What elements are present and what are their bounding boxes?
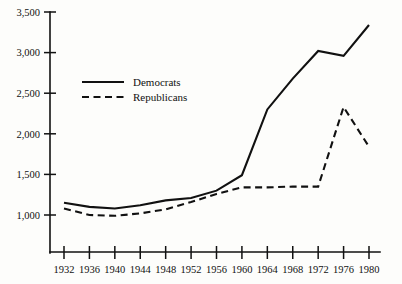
- y-tick-label: 3,000: [16, 47, 40, 58]
- y-axis-tick-labels: 1,0001,5002,0002,5003,0003,500: [16, 7, 40, 221]
- x-tick-label: 1960: [231, 264, 252, 275]
- x-tick-label: 1932: [54, 264, 75, 275]
- x-tick-label: 1936: [79, 264, 100, 275]
- x-tick-label: 1976: [333, 264, 354, 275]
- chart-page: 1,0001,5002,0002,5003,0003,500 193219361…: [0, 0, 402, 284]
- y-tick-label: 1,000: [16, 210, 40, 221]
- x-tick-label: 1956: [206, 264, 227, 275]
- series-group: [64, 25, 369, 216]
- y-tick-label: 2,000: [16, 129, 40, 140]
- x-axis-tick-labels: 1932193619401944194819521956196019641968…: [54, 264, 380, 275]
- series-line-republicans: [64, 107, 369, 216]
- x-tick-label: 1948: [155, 264, 176, 275]
- x-tick-label: 1944: [130, 264, 152, 275]
- y-tick-label: 3,500: [16, 7, 40, 18]
- x-tick-label: 1952: [181, 264, 202, 275]
- series-line-democrats: [64, 25, 369, 209]
- y-tick-label: 2,500: [16, 88, 40, 99]
- x-tick-label: 1964: [257, 264, 279, 275]
- y-tick-label: 1,500: [16, 169, 40, 180]
- line-chart: 1,0001,5002,0002,5003,0003,500 193219361…: [0, 0, 402, 284]
- x-tick-label: 1968: [282, 264, 303, 275]
- x-tick-label: 1940: [104, 264, 125, 275]
- x-tick-label: 1980: [359, 264, 380, 275]
- x-tick-label: 1972: [308, 264, 329, 275]
- chart-legend: DemocratsRepublicans: [82, 76, 187, 103]
- legend-label-republicans: Republicans: [133, 91, 187, 103]
- x-axis: 1932193619401944194819521956196019641968…: [50, 246, 380, 275]
- legend-label-democrats: Democrats: [133, 76, 181, 88]
- y-axis: 1,0001,5002,0002,5003,0003,500: [16, 7, 56, 253]
